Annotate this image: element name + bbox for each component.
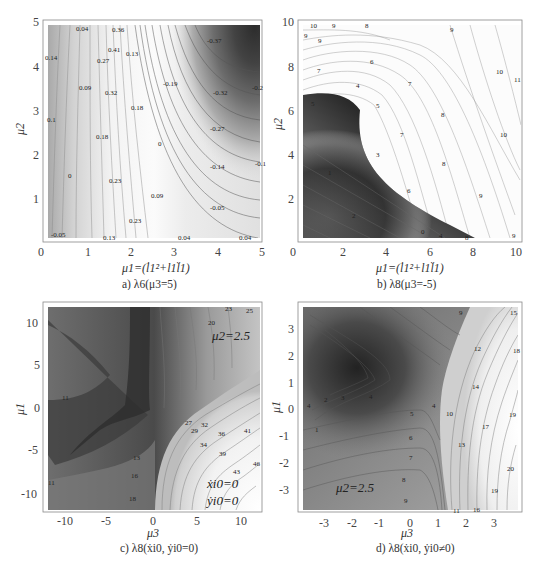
svg-text:1: 1 [33,192,39,206]
svg-text:4: 4 [307,402,311,410]
svg-text:8: 8 [465,234,469,242]
svg-text:1: 1 [85,245,91,259]
svg-text:0.13: 0.13 [126,50,139,58]
svg-text:16: 16 [473,506,481,514]
panel-d-contour-plot: 915 1218 144 44 1019 517 613 720 819 911… [270,280,543,570]
svg-text:7: 7 [408,80,412,88]
svg-text:-2: -2 [279,456,289,470]
svg-text:7: 7 [317,67,321,75]
svg-text:16: 16 [131,472,139,480]
panel-d-x-label: μ3 [400,526,413,540]
svg-text:-10: -10 [57,514,73,528]
svg-text:13: 13 [458,441,466,449]
svg-text:0.41: 0.41 [108,46,121,54]
svg-text:9: 9 [512,232,516,240]
svg-text:2: 2 [324,396,328,404]
svg-text:0: 0 [290,245,296,259]
svg-text:27: 27 [185,419,193,427]
svg-text:5: 5 [259,245,265,259]
svg-text:4: 4 [33,60,39,74]
svg-text:-0.05: -0.05 [51,231,66,239]
svg-text:1: 1 [288,376,294,390]
svg-text:-3: -3 [279,483,289,497]
panel-b-contour-plot: 1098 99 96 77 1011 45 85 710 38 69 04 89… [270,0,543,290]
svg-text:20: 20 [208,319,216,327]
panel-a-x-ticks: 0 1 2 3 4 5 [38,245,265,259]
svg-text:0: 0 [68,172,72,180]
svg-text:6: 6 [427,245,433,259]
panel-c-xdot-annotation: ẋi0=0 [206,476,239,491]
svg-text:5: 5 [33,15,39,29]
svg-text:-5: -5 [101,514,111,528]
svg-text:8: 8 [288,60,294,74]
panel-b-y-label: μ2 [271,118,285,131]
svg-text:0.04: 0.04 [239,234,252,242]
panel-a-y-ticks: 1 2 3 4 5 [33,15,39,206]
svg-text:-0.14: -0.14 [210,163,225,171]
panel-a-contour-plot: 0.040.36 0.410.13 0.140.27 0.090.32 -0.1… [0,0,272,290]
svg-text:2: 2 [128,245,134,259]
svg-text:10: 10 [446,410,454,418]
svg-text:0.27: 0.27 [97,57,110,65]
svg-text:-0.19: -0.19 [163,80,178,88]
svg-text:18: 18 [513,347,521,355]
svg-text:7: 7 [400,131,404,139]
svg-text:-0.1: -0.1 [255,160,267,168]
svg-text:-2: -2 [347,516,357,530]
svg-text:0: 0 [34,401,40,415]
svg-text:-0.05: -0.05 [210,204,225,212]
panel-c-x-label: μ3 [146,526,159,540]
panel-a-x-label: μ1=(l̇1²+l1l̈1) [121,261,190,275]
svg-text:0.23: 0.23 [129,217,142,225]
svg-text:6: 6 [288,104,294,118]
svg-text:10: 10 [282,15,294,29]
svg-text:2: 2 [33,148,39,162]
svg-text:10: 10 [510,245,522,259]
svg-text:11: 11 [48,479,55,487]
panel-a-y-label: μ2 [13,123,27,136]
svg-text:5: 5 [410,410,414,418]
svg-text:9: 9 [459,309,463,317]
svg-text:13: 13 [133,454,141,462]
svg-text:0: 0 [288,402,294,416]
svg-text:25: 25 [246,307,254,315]
svg-text:46: 46 [253,460,261,468]
svg-text:34: 34 [200,441,208,449]
svg-text:0.23: 0.23 [109,177,122,185]
svg-text:-0.32: -0.32 [213,89,228,97]
svg-text:4: 4 [439,232,443,240]
svg-text:9: 9 [332,22,336,30]
svg-text:8: 8 [365,22,369,30]
svg-text:43: 43 [233,468,241,476]
panel-c-ydot-annotation: ẏi0=0 [205,493,239,508]
svg-text:5: 5 [311,100,315,108]
svg-text:2: 2 [288,192,294,206]
svg-text:14: 14 [472,383,480,391]
svg-text:-0.27: -0.27 [210,125,225,133]
svg-text:9: 9 [304,32,308,40]
svg-text:18: 18 [129,495,137,503]
svg-text:4: 4 [356,82,360,90]
svg-text:0.18: 0.18 [96,133,109,141]
svg-text:12: 12 [474,345,482,353]
svg-text:9: 9 [450,26,454,34]
svg-text:9: 9 [318,37,322,45]
svg-text:0.32: 0.32 [105,89,118,97]
svg-text:0.14: 0.14 [45,54,58,62]
svg-text:-1: -1 [374,516,384,530]
svg-text:3: 3 [376,151,380,159]
svg-text:17: 17 [482,423,490,431]
panel-b-x-ticks: 0 2 4 6 8 10 [290,245,522,259]
svg-text:9: 9 [404,497,408,505]
svg-text:10: 10 [496,68,504,76]
svg-text:4: 4 [215,245,221,259]
svg-text:10: 10 [500,131,508,139]
svg-text:0.09: 0.09 [79,84,92,92]
panel-c-y-label: μ1 [13,403,27,416]
svg-text:8: 8 [441,111,445,119]
svg-text:0.09: 0.09 [151,192,164,200]
svg-text:11: 11 [514,76,521,84]
svg-text:3: 3 [341,394,345,402]
svg-text:0: 0 [38,245,44,259]
svg-text:-1: -1 [279,429,289,443]
